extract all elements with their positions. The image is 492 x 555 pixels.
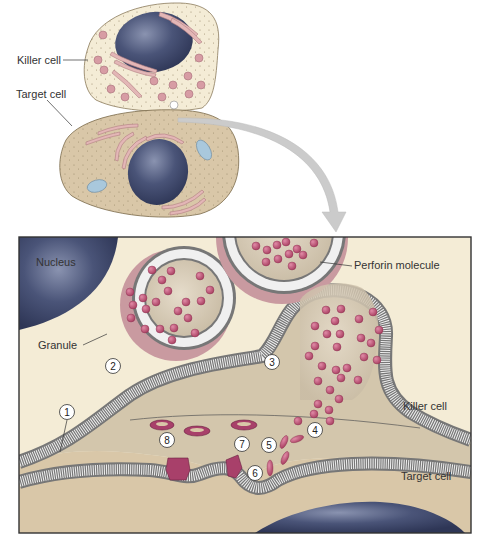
- svg-text:4: 4: [312, 425, 318, 436]
- step-5: 5: [262, 438, 277, 453]
- svg-text:5: 5: [266, 440, 272, 451]
- label-nucleus: Nucleus: [36, 256, 76, 268]
- label-killer-cell-overview: Killer cell: [17, 54, 61, 66]
- overview-cells: Killer cell Target cell: [16, 3, 239, 217]
- step-2: 2: [106, 359, 121, 374]
- step-8: 8: [160, 433, 175, 448]
- label-target-cell-detail: Target cell: [401, 470, 451, 482]
- contact-vesicle: [170, 101, 178, 109]
- detail-panel: Nucleus Perforin molecule Granule Killer…: [19, 170, 471, 533]
- label-killer-cell-detail: Killer cell: [403, 400, 447, 412]
- svg-text:3: 3: [269, 357, 275, 368]
- svg-text:6: 6: [252, 468, 258, 479]
- target-cell-overview: [60, 110, 239, 217]
- diagram-canvas: Killer cell Target cell: [0, 0, 492, 555]
- label-perforin-molecule: Perforin molecule: [354, 259, 440, 271]
- step-7: 7: [235, 437, 250, 452]
- step-4: 4: [308, 423, 323, 438]
- step-3: 3: [265, 355, 280, 370]
- label-granule: Granule: [38, 339, 77, 351]
- step-6: 6: [248, 466, 263, 481]
- svg-text:7: 7: [239, 439, 245, 450]
- label-target-cell-overview: Target cell: [16, 88, 66, 100]
- killer-cell-overview: [84, 3, 219, 111]
- svg-text:8: 8: [164, 435, 170, 446]
- pore-8: [166, 458, 190, 480]
- svg-text:2: 2: [110, 361, 116, 372]
- step-1: 1: [60, 405, 75, 420]
- svg-text:1: 1: [64, 407, 70, 418]
